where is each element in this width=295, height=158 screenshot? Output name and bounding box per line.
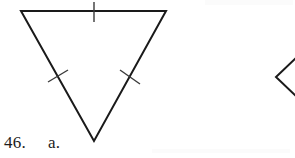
scan-artifact-bottom-band — [152, 149, 290, 153]
triangle-group — [21, 11, 166, 141]
congruence-tick-left-side — [48, 70, 68, 82]
congruence-tick-group — [48, 2, 140, 84]
partial-angle-symbol-icon — [276, 57, 295, 97]
congruence-tick-right-side — [120, 70, 140, 84]
triangle-shape — [21, 11, 166, 141]
worksheet-page: 46. a. — [0, 0, 295, 158]
scan-artifact-top-right — [205, 0, 293, 5]
geometry-figure — [0, 0, 295, 158]
angle-symbol-group — [276, 57, 295, 97]
